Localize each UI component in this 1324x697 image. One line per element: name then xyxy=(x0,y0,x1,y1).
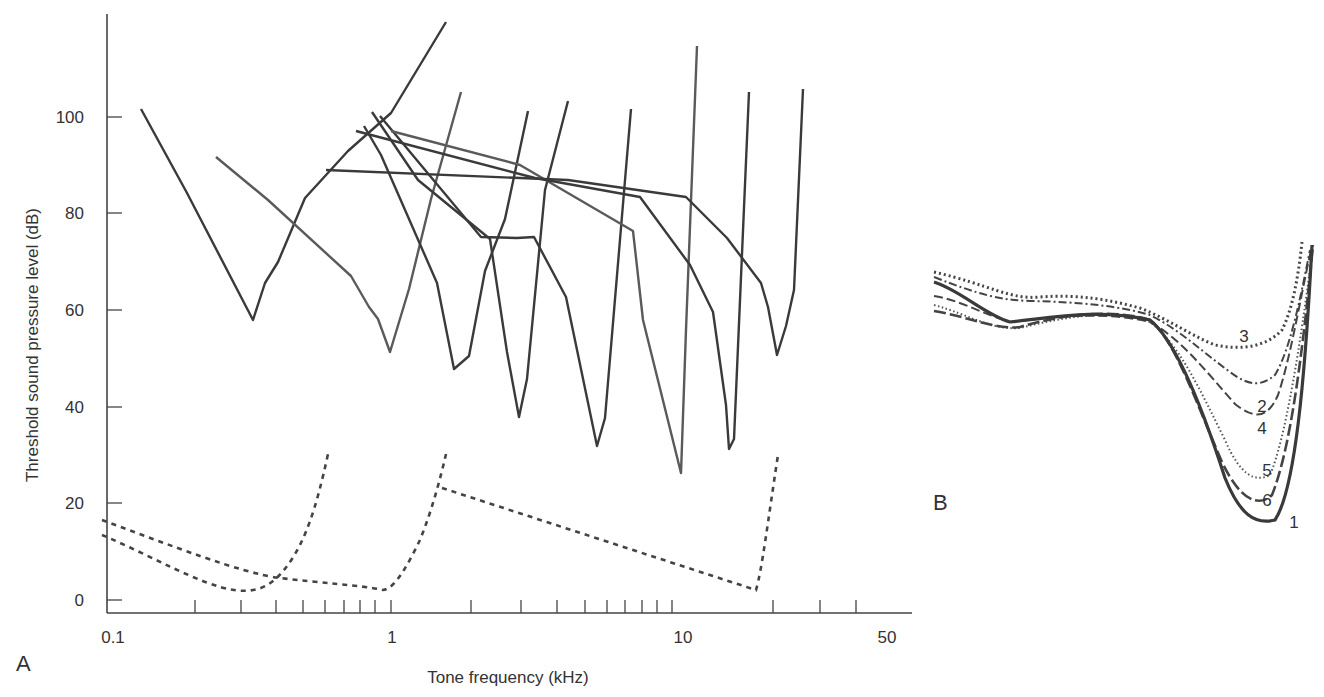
panel-b-curve-label-4: 4 xyxy=(1257,419,1266,438)
panel-b-curve-5 xyxy=(934,245,1313,478)
x-axis-label: Tone frequency (kHz) xyxy=(427,668,589,687)
panel-a-tuning-curves xyxy=(141,22,803,473)
dashed-threshold-curve xyxy=(102,454,446,590)
y-ticks xyxy=(107,117,122,600)
y-tick-label: 20 xyxy=(65,494,84,513)
tuning-curve xyxy=(141,22,446,320)
panel-b-curve-6 xyxy=(934,245,1313,501)
x-tick-labels: 0.1 1 10 50 xyxy=(101,628,896,647)
dashed-threshold-curve xyxy=(102,454,328,591)
panel-a-dashed-thresholds xyxy=(102,454,778,591)
tuning-curve xyxy=(380,109,631,446)
y-tick-label: 80 xyxy=(65,204,84,223)
y-tick-labels: 0 20 40 60 80 100 xyxy=(56,108,84,610)
y-tick-label: 0 xyxy=(75,591,84,610)
tuning-curve xyxy=(326,89,803,355)
tuning-curve xyxy=(391,46,697,473)
x-tick-label: 50 xyxy=(878,628,897,647)
panel-b-curve-label-1: 1 xyxy=(1289,513,1298,532)
x-ticks xyxy=(195,600,856,613)
tuning-curve xyxy=(216,92,461,352)
y-tick-label: 100 xyxy=(56,108,84,127)
y-tick-label: 60 xyxy=(65,301,84,320)
panel-b-curve-label-5: 5 xyxy=(1262,461,1271,480)
panel-a-label: A xyxy=(16,651,31,676)
panel-b-curve-label-2: 2 xyxy=(1257,397,1266,416)
panel-b-curve-4 xyxy=(934,250,1311,414)
panel-b-label: B xyxy=(933,490,948,515)
y-tick-label: 40 xyxy=(65,398,84,417)
y-axis-label: Threshold sound pressure level (dB) xyxy=(23,208,42,482)
x-tick-label: 1 xyxy=(387,628,396,647)
tuning-curve xyxy=(372,101,568,417)
panel-b-curve-label-3: 3 xyxy=(1239,327,1248,346)
x-tick-label: 10 xyxy=(674,628,693,647)
panel-b-curve-label-6: 6 xyxy=(1262,491,1271,510)
panel-b: 3 2 4 5 6 1 B xyxy=(933,242,1313,532)
x-tick-label: 0.1 xyxy=(101,628,125,647)
dashed-threshold-curve xyxy=(442,455,778,590)
auditory-threshold-figure: 0 20 40 60 80 100 xyxy=(0,0,1324,697)
